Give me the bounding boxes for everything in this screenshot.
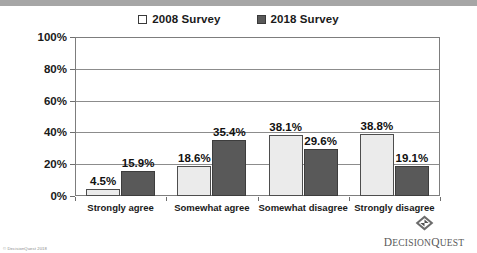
bar-value-label: 4.5% (90, 175, 116, 187)
bar-series1[interactable] (177, 166, 211, 196)
bar-series1[interactable] (86, 189, 120, 196)
y-axis-tick-label: 0% (50, 190, 67, 202)
bar-value-label: 29.6% (304, 135, 337, 147)
x-axis-tick-mark (166, 197, 167, 201)
bar-value-label: 38.8% (361, 120, 394, 132)
survey-bar-chart: 2008 Survey 2018 Survey 0%20%40%60%80%10… (0, 6, 477, 253)
bar-series2[interactable] (212, 140, 246, 196)
bar-value-label: 19.1% (396, 152, 429, 164)
y-axis-tick-label: 20% (44, 158, 67, 170)
x-axis-tick-mark (440, 197, 441, 201)
bar-group: 18.6%35.4% (166, 37, 257, 196)
x-axis-category-label: Strongly agree (73, 202, 169, 213)
y-axis-tick-label: 60% (44, 95, 67, 107)
bars-layer: 4.5%15.9%18.6%35.4%38.1%29.6%38.8%19.1% (75, 37, 440, 196)
legend-item-2008: 2008 Survey (138, 13, 220, 25)
bar-value-label: 18.6% (178, 152, 211, 164)
legend-swatch-2018-icon (257, 15, 266, 24)
bar-series2[interactable] (395, 166, 429, 196)
y-axis-tick-label: 40% (44, 126, 67, 138)
y-axis-tick-label: 100% (38, 31, 67, 43)
y-axis: 0%20%40%60%80%100% (0, 37, 75, 196)
bar-group: 38.8%19.1% (349, 37, 440, 196)
bar-value-label: 15.9% (122, 157, 155, 169)
logo-wordmark: DECISIONQUEST (384, 236, 464, 248)
legend-label-2008: 2008 Survey (152, 13, 220, 25)
chart-legend: 2008 Survey 2018 Survey (0, 9, 477, 29)
x-axis-category-label: Somewhat agree (164, 202, 260, 213)
x-axis-tick-mark (349, 197, 350, 201)
bar-value-label: 35.4% (213, 126, 246, 138)
decisionquest-logo: DECISIONQUEST (378, 215, 470, 248)
bar-value-label: 38.1% (269, 121, 302, 133)
bar-series2[interactable] (121, 171, 155, 196)
bar-series1[interactable] (269, 135, 303, 196)
diamond-logo-icon (415, 215, 434, 235)
bar-group: 38.1%29.6% (258, 37, 349, 196)
bar-series2[interactable] (304, 149, 338, 196)
x-axis-tick-mark (258, 197, 259, 201)
legend-label-2018: 2018 Survey (271, 13, 339, 25)
copyright-notice: © DecisionQuest 2018 (3, 246, 47, 251)
x-axis-tick-mark (75, 197, 76, 201)
x-axis-category-label: Strongly disagree (346, 202, 442, 213)
bar-series1[interactable] (360, 134, 394, 196)
x-axis-category-label: Somewhat disagree (255, 202, 351, 213)
legend-swatch-2008-icon (138, 15, 147, 24)
y-axis-tick-label: 80% (44, 63, 67, 75)
legend-item-2018: 2018 Survey (257, 13, 339, 25)
bar-group: 4.5%15.9% (75, 37, 166, 196)
